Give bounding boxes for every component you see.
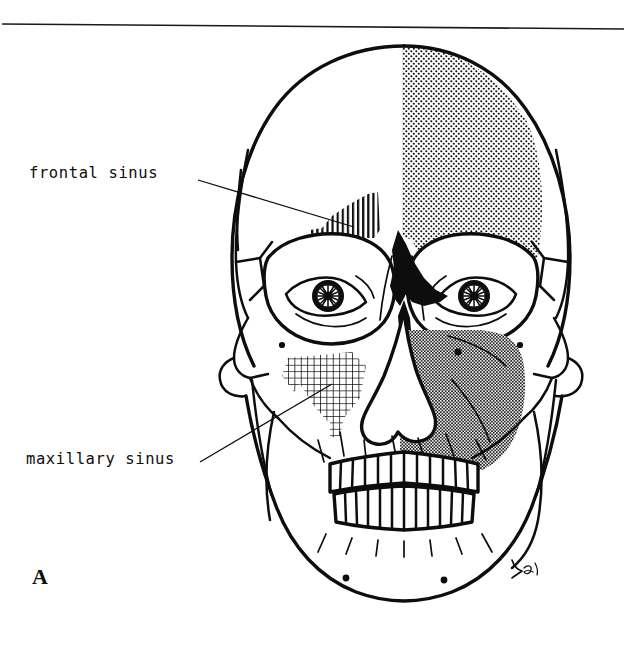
zygomatic-arch-right	[556, 358, 582, 396]
foramen-right	[517, 342, 523, 348]
figure-panel: frontal sinus maxillary sinus A	[0, 0, 626, 659]
artist-signature	[512, 560, 537, 578]
label-frontal-sinus: frontal sinus	[29, 166, 158, 182]
alveolar-striations-lower	[318, 534, 492, 557]
top-rule	[2, 24, 624, 29]
mandible-angle-left	[267, 412, 274, 520]
zygomatic-right-lower	[524, 378, 552, 418]
label-maxillary-sinus: maxillary sinus	[26, 452, 175, 468]
zygomatic-arch-left	[220, 358, 246, 396]
maxillary-sinus-region	[282, 352, 366, 438]
infraorbital-foramen-right	[454, 348, 461, 355]
panel-letter: A	[32, 566, 48, 588]
mental-foramen-left	[343, 575, 350, 582]
mental-foramen-right	[441, 577, 448, 584]
suture-sphenoid-left-2	[250, 258, 264, 300]
skull-illustration	[0, 0, 626, 659]
foramen-left	[279, 342, 285, 348]
leader-maxillary-sinus	[200, 384, 332, 462]
leader-frontal-sinus	[198, 180, 354, 227]
suture-sphenoid-right-2	[540, 258, 554, 300]
maxilla-edge-left	[278, 418, 330, 458]
